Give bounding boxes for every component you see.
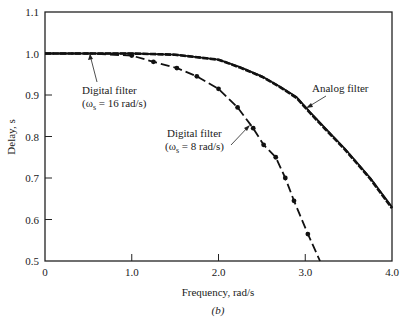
data-point-marker xyxy=(235,105,240,110)
y-tick-label: 0.8 xyxy=(25,131,39,143)
data-point-marker xyxy=(292,198,297,203)
svg-text:Digital filter: Digital filter xyxy=(82,84,137,96)
data-point-marker xyxy=(273,155,278,160)
data-point-marker xyxy=(305,232,310,237)
delay-chart: 0.50.60.70.80.91.01.1 01.02.03.04.0 Freq… xyxy=(0,0,405,319)
annotation-analog: Analog filter xyxy=(306,82,369,108)
svg-text:(ωs = 16 rad/s): (ωs = 16 rad/s) xyxy=(82,97,147,112)
annotation-digital-8: Digital filter (ωs = 8 rad/s) xyxy=(165,125,250,155)
arrowhead-icon xyxy=(88,54,93,60)
data-point-marker xyxy=(151,59,156,64)
x-tick-label: 0 xyxy=(42,266,48,278)
x-tick-label: 2.0 xyxy=(212,266,226,278)
svg-text:Digital filter: Digital filter xyxy=(167,127,222,139)
x-tick-label: 3.0 xyxy=(298,266,312,278)
x-axis: 01.02.03.04.0 xyxy=(42,254,399,278)
annotation-digital-16: Digital filter (ωs = 16 rad/s) xyxy=(82,54,147,112)
y-axis: 0.50.60.70.80.91.01.1 xyxy=(25,6,52,267)
data-point-marker xyxy=(216,86,221,91)
data-point-marker xyxy=(283,176,288,181)
svg-text:(ωs = 8 rad/s): (ωs = 8 rad/s) xyxy=(165,140,224,155)
figure-caption: (b) xyxy=(212,304,225,317)
y-axis-title: Delay, s xyxy=(5,119,17,154)
y-tick-label: 0.6 xyxy=(25,214,39,226)
y-tick-label: 0.9 xyxy=(25,89,39,101)
data-point-marker xyxy=(251,126,256,131)
y-tick-label: 1.0 xyxy=(25,48,39,60)
y-tick-label: 1.1 xyxy=(25,6,39,18)
arrowhead-icon xyxy=(306,103,313,108)
data-point-marker xyxy=(261,142,266,147)
svg-text:Analog filter: Analog filter xyxy=(312,82,369,94)
data-point-marker xyxy=(174,66,179,71)
x-tick-label: 1.0 xyxy=(125,266,139,278)
y-tick-label: 0.5 xyxy=(25,255,39,267)
data-point-marker xyxy=(129,53,134,58)
data-point-marker xyxy=(194,74,199,79)
x-axis-title: Frequency, rad/s xyxy=(182,286,255,298)
y-tick-label: 0.7 xyxy=(25,172,39,184)
x-tick-label: 4.0 xyxy=(385,266,399,278)
